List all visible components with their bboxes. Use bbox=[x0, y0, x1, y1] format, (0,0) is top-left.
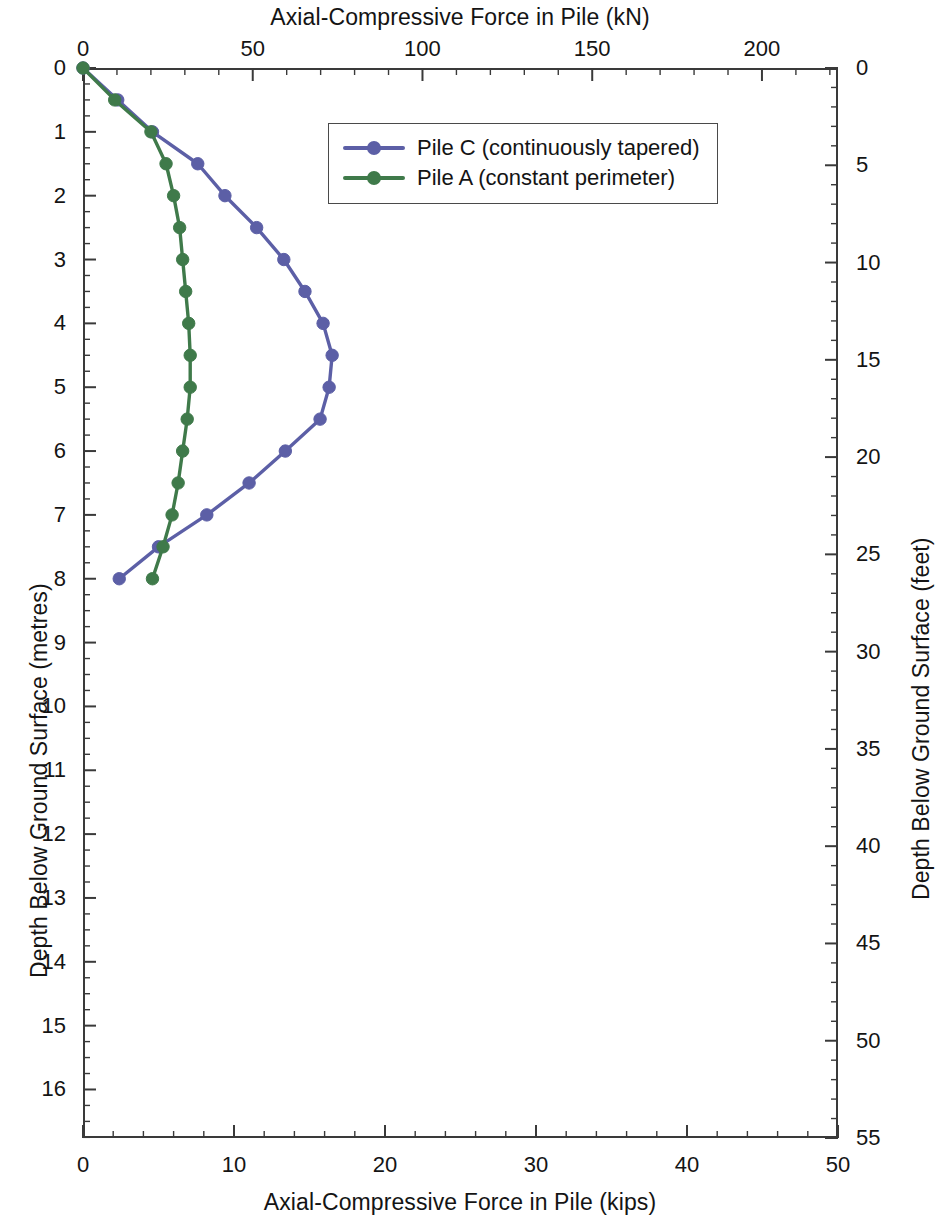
left-axis-tick-label: 2 bbox=[38, 183, 66, 209]
left-axis-tick-label: 6 bbox=[38, 438, 66, 464]
legend: Pile C (continuously tapered) Pile A (co… bbox=[328, 123, 718, 204]
bottom-axis-title: Axial-Compressive Force in Pile (kips) bbox=[0, 1189, 920, 1216]
top-axis-title: Axial-Compressive Force in Pile (kN) bbox=[0, 4, 920, 31]
left-axis-tick-label: 7 bbox=[38, 502, 66, 528]
legend-swatch-pile-a bbox=[343, 167, 405, 189]
left-axis-tick-label: 4 bbox=[38, 310, 66, 336]
left-axis-tick-label: 12 bbox=[38, 821, 66, 847]
top-axis-tick-label: 150 bbox=[574, 36, 611, 62]
top-axis-tick-label: 50 bbox=[240, 36, 264, 62]
left-axis-tick-label: 3 bbox=[38, 247, 66, 273]
right-axis-title: Depth Below Ground Surface (feet) bbox=[908, 537, 935, 900]
right-axis-tick-label: 5 bbox=[856, 152, 868, 178]
right-axis-tick-label: 30 bbox=[856, 639, 880, 665]
left-axis-tick-label: 15 bbox=[38, 1013, 66, 1039]
right-axis-tick-label: 40 bbox=[856, 833, 880, 859]
left-axis-tick-label: 8 bbox=[38, 566, 66, 592]
top-axis-tick-label: 200 bbox=[744, 36, 781, 62]
left-axis-tick-label: 5 bbox=[38, 374, 66, 400]
bottom-axis-tick-label: 0 bbox=[77, 1152, 89, 1178]
right-axis-tick-label: 0 bbox=[856, 55, 868, 81]
legend-label-pile-a: Pile A (constant perimeter) bbox=[417, 165, 675, 191]
left-axis-tick-label: 0 bbox=[38, 55, 66, 81]
legend-item-pile-a[interactable]: Pile A (constant perimeter) bbox=[343, 163, 699, 193]
left-axis-tick-label: 11 bbox=[38, 757, 66, 783]
legend-label-pile-c: Pile C (continuously tapered) bbox=[417, 135, 699, 161]
right-axis-tick-label: 20 bbox=[856, 444, 880, 470]
bottom-axis-tick-label: 50 bbox=[826, 1152, 850, 1178]
bottom-axis-tick-label: 30 bbox=[524, 1152, 548, 1178]
left-axis-tick-label: 1 bbox=[38, 119, 66, 145]
right-axis-tick-label: 55 bbox=[856, 1125, 880, 1151]
left-axis-tick-label: 13 bbox=[38, 885, 66, 911]
right-axis-tick-label: 50 bbox=[856, 1028, 880, 1054]
right-axis-tick-label: 10 bbox=[856, 250, 880, 276]
left-axis-tick-label: 10 bbox=[38, 693, 66, 719]
right-axis-tick-label: 25 bbox=[856, 541, 880, 567]
left-axis-tick-label: 9 bbox=[38, 630, 66, 656]
top-axis-tick-label: 0 bbox=[77, 36, 89, 62]
left-axis-tick-label: 16 bbox=[38, 1076, 66, 1102]
bottom-axis-tick-label: 20 bbox=[373, 1152, 397, 1178]
bottom-axis-tick-label: 40 bbox=[675, 1152, 699, 1178]
bottom-axis-tick-label: 10 bbox=[222, 1152, 246, 1178]
left-axis-tick-label: 14 bbox=[38, 949, 66, 975]
top-axis-tick-label: 100 bbox=[404, 36, 441, 62]
plot-area bbox=[83, 68, 838, 1138]
legend-swatch-pile-c bbox=[343, 137, 405, 159]
right-axis-tick-label: 15 bbox=[856, 347, 880, 373]
right-axis-tick-label: 35 bbox=[856, 736, 880, 762]
legend-item-pile-c[interactable]: Pile C (continuously tapered) bbox=[343, 133, 699, 163]
right-axis-tick-label: 45 bbox=[856, 930, 880, 956]
